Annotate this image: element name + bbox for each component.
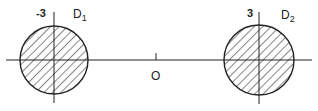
disc-d1-center-label: -3 [36,7,46,19]
disc-d2-center-label: 3 [247,7,253,19]
origin-label: O [151,69,160,83]
disc-d1 [20,12,88,103]
disc-d2 [224,12,294,104]
diagram-canvas: O -3 D1 3 D2 [0,0,318,111]
disc-d2-name: D2 [281,8,295,24]
disc-d1-name: D1 [73,7,87,23]
